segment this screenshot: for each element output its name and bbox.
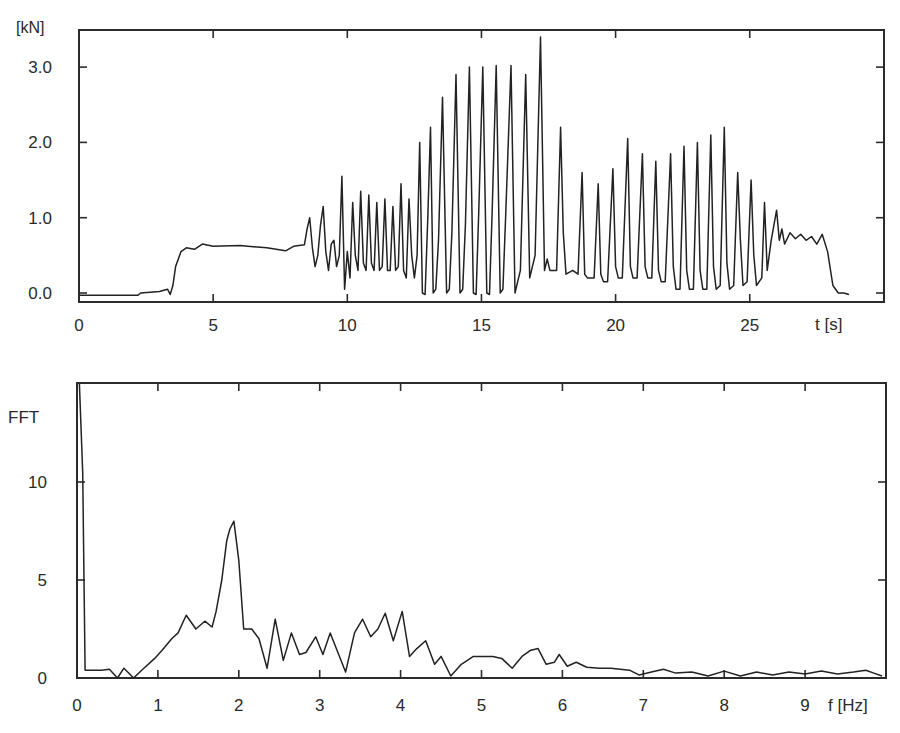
x-tick-label: 4 xyxy=(396,696,405,715)
figure: 05101520250.01.02.03.0 [kN] t [s] 012345… xyxy=(0,0,900,733)
x-tick-label: 9 xyxy=(800,696,809,715)
x-tick-label: 8 xyxy=(719,696,728,715)
x-tick-label: 3 xyxy=(315,696,324,715)
x-tick-label: 25 xyxy=(740,316,759,335)
x-tick-label: 0 xyxy=(74,316,83,335)
x-tick-label: 2 xyxy=(234,696,243,715)
x-unit-label: t [s] xyxy=(815,315,842,334)
y-unit-label: [kN] xyxy=(16,19,44,36)
top-axis-ticks xyxy=(79,30,884,302)
fft-trace xyxy=(79,384,882,678)
x-tick-label: 15 xyxy=(472,316,491,335)
y-tick-label: 0.0 xyxy=(28,284,52,303)
bottom-plot-frame xyxy=(77,383,886,678)
force-time-chart: 05101520250.01.02.03.0 [kN] t [s] xyxy=(16,19,884,335)
x-tick-label: 6 xyxy=(558,696,567,715)
fft-axis-label: FFT xyxy=(8,408,39,427)
bottom-axis-ticks xyxy=(77,383,886,678)
y-tick-label: 10 xyxy=(28,473,47,492)
top-tick-labels: 05101520250.01.02.03.0 xyxy=(28,58,759,335)
y-tick-label: 0 xyxy=(38,669,47,688)
y-tick-label: 2.0 xyxy=(28,133,52,152)
top-plot-frame xyxy=(79,30,884,302)
x-tick-label: 5 xyxy=(477,696,486,715)
x-tick-label: 20 xyxy=(606,316,625,335)
x-tick-label: 1 xyxy=(153,696,162,715)
x-tick-label: 7 xyxy=(639,696,648,715)
fft-chart: 01234567890510 FFT f [Hz] xyxy=(8,383,886,715)
y-tick-label: 1.0 xyxy=(28,209,52,228)
y-tick-label: 5 xyxy=(38,571,47,590)
force-trace xyxy=(79,37,849,295)
x-tick-label: 5 xyxy=(208,316,217,335)
x-tick-label: 0 xyxy=(72,696,81,715)
x-tick-label: 10 xyxy=(338,316,357,335)
y-tick-label: 3.0 xyxy=(28,58,52,77)
frequency-unit-label: f [Hz] xyxy=(828,696,868,715)
